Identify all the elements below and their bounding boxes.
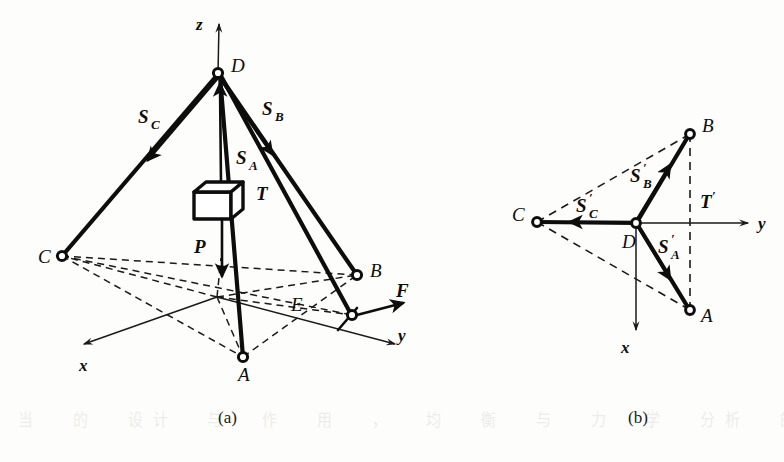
dashed-edge-A-B (243, 275, 357, 357)
node-C (57, 251, 66, 260)
diagram-a-group: z x y D C B A E S C S B S A T P F (38, 15, 409, 385)
point-label-Ab: A (699, 305, 713, 326)
vector-label-SB-sub: B (274, 109, 284, 124)
point-label-Cb: C (512, 204, 525, 225)
vector-label-SA-sub: A (248, 158, 258, 173)
axis-label-x-b: x (620, 338, 630, 357)
dashed-spoke-O-C (62, 256, 217, 297)
axis-label-x: x (78, 356, 88, 375)
applied-force-F (353, 303, 403, 316)
point-label-Bb: B (702, 115, 714, 136)
point-label-A: A (236, 364, 250, 385)
node-Db (632, 219, 641, 228)
node-A (238, 352, 247, 361)
vector-label-SBp: S B ′ (630, 160, 652, 191)
dashed-edge-Cb-Bb (537, 134, 690, 222)
vector-label-SBp-prime: ′ (643, 160, 647, 175)
member-DB (219, 75, 357, 275)
point-label-C: C (38, 246, 51, 267)
force-vector-SBp (636, 165, 670, 221)
vector-label-SA: S A (236, 147, 258, 173)
node-Ab (686, 306, 695, 315)
caption-a: (a) (218, 408, 237, 427)
rod-D-to-C (62, 74, 218, 256)
dashed-vertical-O-up (217, 258, 221, 297)
vector-label-F: F (395, 280, 409, 301)
vector-label-SCp-sub: C (589, 206, 598, 221)
axis-x-line (84, 297, 217, 344)
axis-y-line (217, 297, 395, 344)
axis-label-y-b: y (756, 214, 766, 233)
node-Cb (533, 218, 542, 227)
point-label-Db: D (621, 231, 636, 252)
node-B (352, 270, 361, 279)
member-DC-b (539, 222, 636, 223)
diagram-b-group: B C A D y x S C ′ S B ′ S A ′ T (512, 115, 766, 357)
vector-label-Tp: T ′ (700, 188, 716, 212)
member-DC (62, 74, 218, 256)
vector-label-SB: S B (262, 98, 284, 124)
vector-label-T: T (256, 183, 269, 204)
vector-label-P: P (193, 236, 206, 257)
statics-force-diagram: z x y D C B A E S C S B S A T P F (0, 0, 784, 462)
point-label-D: D (230, 55, 245, 76)
point-label-B: B (370, 260, 382, 281)
vector-label-SAp-base: S (658, 236, 669, 257)
dashed-edge-C-B (62, 256, 357, 275)
axis-label-z: z (195, 15, 203, 34)
vector-label-SA-base: S (236, 147, 247, 168)
base-plane-dashed-lines (62, 256, 357, 357)
vector-label-SAp-sub: A (670, 247, 680, 262)
axis-z-line (218, 24, 219, 73)
vector-label-Tp-prime: ′ (712, 188, 716, 203)
vector-label-SBp-sub: B (642, 176, 652, 191)
node-E (347, 310, 356, 319)
vector-label-SC-sub: C (151, 117, 160, 132)
node-D (213, 68, 222, 77)
point-label-E: E (290, 294, 303, 315)
force-vector-SA (220, 84, 221, 184)
axis-label-y: y (396, 326, 406, 345)
vector-label-SBp-base: S (630, 165, 641, 186)
vector-label-SAp-prime: ′ (671, 231, 675, 246)
vector-label-SCp: S C ′ (576, 190, 598, 221)
vector-label-SB-base: S (262, 98, 273, 119)
hanging-block (194, 182, 243, 219)
block-front-face (194, 192, 231, 219)
force-vector-F (353, 303, 403, 316)
vector-label-SC-base: S (138, 106, 149, 127)
vector-label-SCp-prime: ′ (589, 190, 593, 205)
caption-b: (b) (628, 408, 648, 427)
node-Bb (686, 130, 695, 139)
vector-label-SCp-base: S (576, 195, 587, 216)
vector-label-SAp: S A ′ (658, 231, 680, 262)
vector-label-SC: S C (138, 106, 160, 132)
figure-root: z x y D C B A E S C S B S A T P F (0, 0, 784, 462)
